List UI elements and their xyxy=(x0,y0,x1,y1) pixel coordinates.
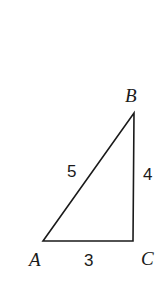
vertex-label-b: B xyxy=(125,86,137,105)
vertex-label-a: A xyxy=(29,250,41,269)
side-length-label-bc: 4 xyxy=(143,166,152,183)
triangle-shape xyxy=(43,113,134,241)
geometry-figure-page: A B C 5 4 3 xyxy=(0,0,167,284)
vertex-label-c: C xyxy=(141,249,154,268)
side-length-label-ab: 5 xyxy=(67,163,76,180)
side-length-label-ac: 3 xyxy=(84,252,93,269)
triangle-svg xyxy=(0,0,167,284)
